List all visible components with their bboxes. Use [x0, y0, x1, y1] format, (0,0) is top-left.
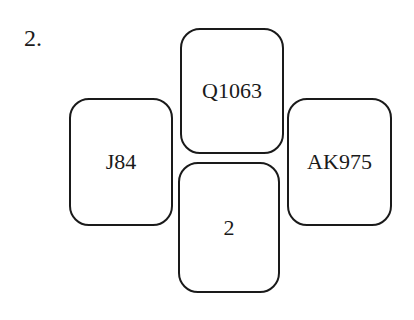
- card-west-label: J84: [106, 149, 137, 175]
- card-south-label: 2: [224, 215, 235, 241]
- card-south: 2: [178, 162, 280, 293]
- card-west: J84: [69, 98, 173, 226]
- card-east: AK975: [287, 98, 392, 226]
- card-east-label: AK975: [307, 149, 372, 175]
- card-north: Q1063: [180, 28, 284, 154]
- problem-number: 2.: [24, 24, 42, 52]
- card-north-label: Q1063: [202, 78, 262, 104]
